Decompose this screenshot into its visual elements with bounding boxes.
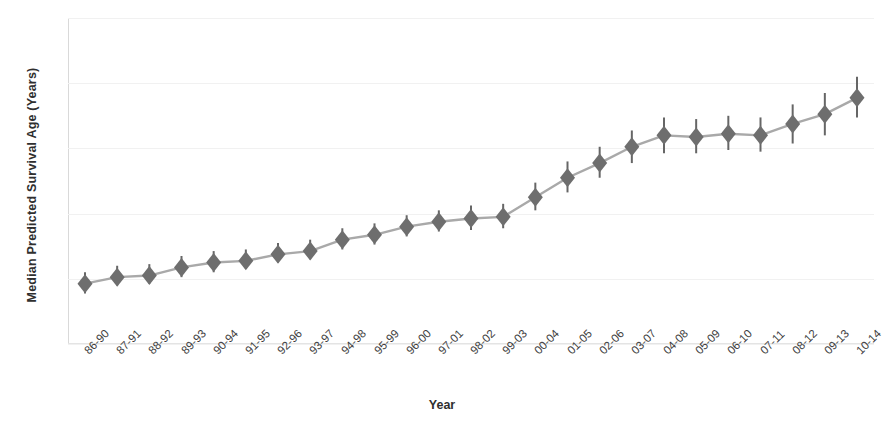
x-axis-title: Year xyxy=(0,398,884,412)
data-point-marker xyxy=(817,105,832,124)
data-point-marker xyxy=(367,225,382,244)
data-point-marker xyxy=(174,258,189,277)
data-point-marker xyxy=(431,212,446,231)
data-point-marker xyxy=(496,207,511,226)
data-point-marker xyxy=(721,124,736,143)
data-point-marker xyxy=(592,154,607,173)
chart-figure: Median Predicted Survival Age (Years) 24… xyxy=(0,0,884,434)
data-series xyxy=(68,18,874,344)
data-point-marker xyxy=(785,114,800,133)
figure-caption xyxy=(8,424,878,434)
data-point-marker xyxy=(399,217,414,236)
data-point-marker xyxy=(335,230,350,249)
data-point-marker xyxy=(850,88,865,107)
trend-line xyxy=(85,98,857,284)
data-point-marker xyxy=(110,268,125,287)
data-point-marker xyxy=(464,209,479,228)
data-point-marker xyxy=(271,245,286,264)
y-axis-title: Median Predicted Survival Age (Years) xyxy=(25,35,39,335)
data-point-marker xyxy=(303,242,318,261)
data-point-marker xyxy=(560,168,575,187)
data-point-marker xyxy=(624,137,639,156)
plot-area: 242832364044 86-9087-9188-9289-9390-9491… xyxy=(68,18,874,344)
data-point-marker xyxy=(238,251,253,270)
data-point-marker xyxy=(142,266,157,285)
data-point-marker xyxy=(753,126,768,145)
data-point-marker xyxy=(689,127,704,146)
data-point-marker xyxy=(657,126,672,145)
data-point-marker xyxy=(528,188,543,207)
data-point-marker xyxy=(78,274,93,293)
data-point-marker xyxy=(206,253,221,272)
